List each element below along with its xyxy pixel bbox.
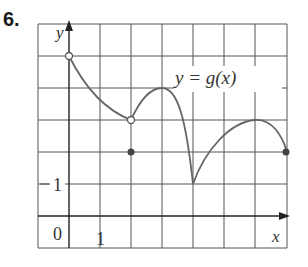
y-axis-label: y (54, 23, 64, 42)
y-tick-label-1: 1 (53, 175, 62, 195)
x-axis-arrow-icon (279, 212, 290, 220)
closed-point-2-2 (128, 149, 135, 156)
origin-label: 0 (53, 224, 62, 244)
x-axis-label: x (271, 227, 280, 246)
closed-point-7-2 (283, 149, 290, 156)
function-label: y = g(x) (173, 67, 236, 89)
open-point-2-3 (128, 117, 135, 124)
grid (38, 24, 287, 248)
open-point-0-5 (66, 53, 73, 60)
graph: y x 0 1 1 y = g(x) (0, 0, 308, 267)
x-tick-label-1: 1 (96, 229, 105, 249)
axes (38, 20, 290, 248)
y-axis-arrow-icon (65, 20, 73, 31)
